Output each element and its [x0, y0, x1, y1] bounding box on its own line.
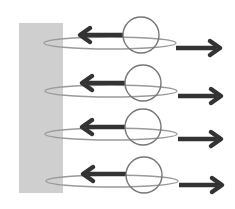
diagram-canvas — [0, 0, 235, 209]
row-4 — [46, 157, 222, 193]
rows-group — [44, 17, 222, 193]
wall-surface — [19, 23, 63, 193]
particle-circle — [125, 65, 161, 101]
row-2 — [45, 65, 221, 103]
orbit-ellipse — [44, 37, 176, 49]
orbit-ellipse — [45, 85, 177, 97]
row-1 — [44, 17, 220, 55]
particle-circle — [123, 17, 159, 53]
row-3 — [45, 109, 221, 146]
